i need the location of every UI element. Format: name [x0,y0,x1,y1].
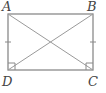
vertex-label-a: A [1,0,11,14]
vertex-label-d: D [1,74,13,89]
vertex-label-c: C [88,74,98,89]
vertex-label-b: B [86,0,97,14]
rectangle-diagram: A B D C [0,0,106,93]
